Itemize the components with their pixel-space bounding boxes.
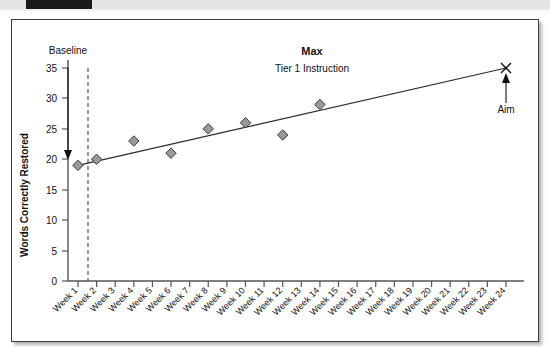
data-point-week-14: [315, 99, 325, 109]
aim-label: Aim: [497, 104, 514, 115]
baseline-label: Baseline: [49, 45, 88, 56]
trend-line-segment: [78, 68, 506, 165]
y-tick-label-5: 5: [51, 246, 57, 257]
chart-subtitle: Tier 1 Instruction: [275, 63, 349, 74]
scan-artifact-strip: [0, 0, 550, 9]
chart-svg: Max Tier 1 Instruction Words Correctly R…: [12, 20, 540, 343]
y-tick-label-20: 20: [46, 154, 58, 165]
y-tick-label-30: 30: [46, 93, 58, 104]
y-axis-label: Words Correctly Restored: [19, 133, 30, 257]
y-tick-label-25: 25: [46, 124, 58, 135]
aim-marker: [501, 63, 511, 73]
data-point-week-2: [91, 154, 101, 164]
aim-arrow-head: [502, 73, 510, 83]
data-point-week-4: [129, 136, 139, 146]
data-point-week-8: [203, 124, 213, 134]
data-markers: [73, 99, 325, 170]
screenshot-page: Max Tier 1 Instruction Words Correctly R…: [0, 0, 550, 356]
scan-edge-line: [0, 9, 550, 11]
figure-card: Max Tier 1 Instruction Words Correctly R…: [11, 19, 539, 342]
y-axis-ticks: 35 30 25 20 15 10 5 0: [46, 63, 68, 287]
y-tick-label-35: 35: [46, 63, 58, 74]
data-point-week-6: [166, 148, 176, 158]
data-point-week-1: [73, 160, 83, 170]
y-tick-label-0: 0: [51, 276, 57, 287]
data-point-week-12: [277, 130, 287, 140]
x-axis-ticks: Week 1Week 2Week 3Week 4Week 5Week 6Week…: [51, 281, 508, 317]
chart-container: Max Tier 1 Instruction Words Correctly R…: [12, 20, 540, 343]
y-tick-label-15: 15: [46, 185, 58, 196]
scan-black-block: [26, 0, 92, 9]
aim-annotation: Aim: [497, 73, 514, 115]
aim-trend-line: [78, 68, 506, 165]
y-tick-label-10: 10: [46, 215, 58, 226]
chart-title: Max: [301, 45, 323, 57]
